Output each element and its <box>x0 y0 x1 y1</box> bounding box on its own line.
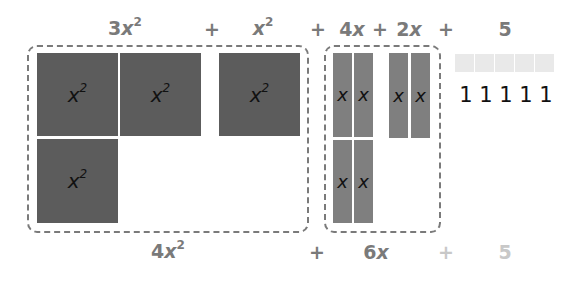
unit-label: 1 <box>519 85 532 106</box>
x-tile-label: x <box>415 87 426 105</box>
top-plus-1: + <box>204 20 220 39</box>
unit-tile <box>515 54 534 72</box>
bottom-term-5: 5 <box>498 243 511 262</box>
x-tile: x <box>354 140 373 223</box>
x-squared-tile-label: x2 <box>68 171 87 191</box>
x-tile-label: x <box>337 173 348 191</box>
top-term-5: 5 <box>498 20 511 39</box>
top-term-x2: x2 <box>253 19 274 38</box>
unit-tile <box>455 54 474 72</box>
bottom-plus-1: + <box>309 243 325 262</box>
unit-label: 1 <box>479 85 492 106</box>
unit-label: 1 <box>499 85 512 106</box>
x-squared-tile: x2 <box>219 53 300 136</box>
unit-tile <box>495 54 514 72</box>
x-squared-tile: x2 <box>37 53 118 136</box>
top-term-4x: 4x <box>339 20 365 39</box>
x-squared-tile: x2 <box>37 139 118 223</box>
x-tile-label: x <box>337 86 348 104</box>
unit-tile <box>535 54 554 72</box>
x-squared-tile-label: x2 <box>68 85 87 105</box>
bottom-plus-2: + <box>438 243 454 262</box>
top-term-2x: 2x <box>396 20 422 39</box>
unit-label: 1 <box>459 85 472 106</box>
unit-label: 1 <box>539 85 552 106</box>
x-tile-label: x <box>358 173 369 191</box>
bottom-term-4x2: 4x2 <box>151 242 185 261</box>
x-squared-tile: x2 <box>120 53 201 136</box>
unit-tile <box>475 54 494 72</box>
x-tile: x <box>389 53 408 138</box>
top-plus-3: + <box>372 20 388 39</box>
x-tile: x <box>333 53 352 137</box>
x-tile-label: x <box>393 87 404 105</box>
top-term-3x2: 3x2 <box>108 19 142 38</box>
bottom-term-6x: 6x <box>363 243 389 262</box>
top-plus-2: + <box>310 20 326 39</box>
x-tile-label: x <box>358 86 369 104</box>
top-plus-4: + <box>438 20 454 39</box>
x-tile: x <box>354 53 373 137</box>
x-tile: x <box>411 53 430 138</box>
x-squared-tile-label: x2 <box>151 85 170 105</box>
x-tile: x <box>333 140 352 223</box>
x-squared-tile-label: x2 <box>250 85 269 105</box>
